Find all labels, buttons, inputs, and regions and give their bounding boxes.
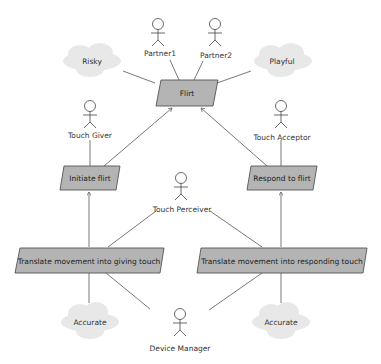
actor-label: Touch Acceptor xyxy=(252,133,311,142)
actor-touch-acceptor[interactable]: Touch Acceptor xyxy=(252,101,311,143)
actor-touch-perceiver[interactable]: Touch Perceiver xyxy=(152,173,213,215)
actor-partner2[interactable]: Partner2 xyxy=(200,19,232,61)
line-partner2-flirt xyxy=(194,61,203,80)
quality-risky[interactable]: Risky xyxy=(63,43,121,77)
actor-label: Touch Perceiver xyxy=(152,205,213,214)
arrow-initiate-flirt xyxy=(104,108,172,166)
goal-respond-flirt[interactable]: Respond to flirt xyxy=(247,166,317,190)
actor-touch-giver[interactable]: Touch Giver xyxy=(67,101,113,141)
line-partner1-flirt xyxy=(170,60,179,80)
goal-initiate-flirt[interactable]: Initiate flirt xyxy=(60,166,120,190)
quality-label: Risky xyxy=(82,57,102,66)
actor-label: Partner1 xyxy=(144,49,176,58)
actor-partner1[interactable]: Partner1 xyxy=(144,19,176,59)
actor-icon xyxy=(274,101,288,129)
actor-icon xyxy=(173,309,187,337)
goal-translate-responding[interactable]: Translate movement into responding touch xyxy=(197,248,367,273)
actor-icon xyxy=(174,173,188,201)
quality-accurate-left[interactable]: Accurate xyxy=(61,302,119,339)
quality-label: Accurate xyxy=(73,318,107,327)
goal-flirt[interactable]: Flirt xyxy=(156,80,218,106)
quality-accurate-right[interactable]: Accurate xyxy=(252,302,310,339)
goal-label: Translate movement into responding touch xyxy=(200,257,363,266)
actor-icon xyxy=(83,101,97,129)
goal-translate-giving[interactable]: Translate movement into giving touch xyxy=(15,248,164,273)
quality-label: Accurate xyxy=(264,318,298,327)
goal-label: Initiate flirt xyxy=(69,174,110,183)
actor-device-manager[interactable]: Device Manager xyxy=(150,309,212,354)
goal-label: Respond to flirt xyxy=(253,174,310,183)
line-perceiver-giving xyxy=(108,211,156,247)
goal-label: Flirt xyxy=(180,89,195,98)
goal-label: Translate movement into giving touch xyxy=(17,257,161,266)
line-playful-flirt xyxy=(217,71,251,83)
line-perceiver-responding xyxy=(210,211,262,247)
line-giving-devicemanager xyxy=(106,273,150,309)
actor-label: Partner2 xyxy=(200,51,232,60)
actor-icon xyxy=(151,19,165,47)
actor-icon xyxy=(208,19,222,47)
quality-playful[interactable]: Playful xyxy=(254,43,312,77)
actor-label: Touch Giver xyxy=(67,131,113,140)
line-responding-devicemanager xyxy=(209,273,262,310)
goal-model-diagram: Risky Playful Accurate Accurate Flirt xyxy=(0,0,381,364)
line-risky-flirt xyxy=(123,71,155,83)
actor-label: Device Manager xyxy=(150,344,212,353)
quality-label: Playful xyxy=(269,57,294,66)
